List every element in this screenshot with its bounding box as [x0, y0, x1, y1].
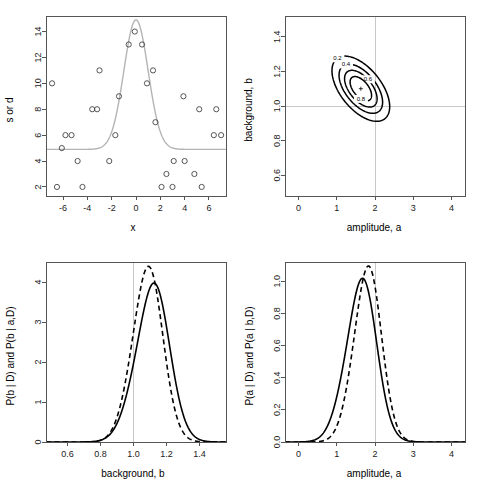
data-point: [214, 107, 219, 112]
x-tick-label: 1: [334, 203, 339, 213]
density-curves-layer: [46, 266, 226, 442]
figure-canvas: -6-4-202462468101214 x s or d 0.20.40.60…: [0, 0, 477, 492]
data-points-layer: [49, 29, 223, 190]
x-axis-title: amplitude, a: [347, 468, 402, 479]
x-tick-label: 4: [449, 449, 454, 459]
data-point: [49, 81, 54, 86]
density-curve-marginal: [46, 283, 226, 442]
background-marginal-svg: 0.60.81.01.21.401234 background, b P(b |…: [0, 246, 238, 492]
data-point: [219, 133, 224, 138]
y-axis-title: background, b: [243, 78, 254, 142]
data-point: [159, 184, 164, 189]
panel-amplitude-marginal: 012340.00.20.40.60.81.0 amplitude, a P(a…: [239, 246, 477, 492]
axes-layer: 012340.60.81.01.21.4: [272, 16, 465, 213]
data-point: [197, 107, 202, 112]
y-tick-label: 8: [33, 107, 43, 112]
scatter-plot-svg: -6-4-202462468101214 x s or d: [0, 0, 238, 246]
y-tick-label: 10: [33, 78, 43, 88]
panel-scatter-with-model: -6-4-202462468101214 x s or d: [0, 0, 238, 246]
y-tick-label: 0.0: [272, 436, 282, 449]
x-axis-title: x: [131, 222, 136, 233]
y-tick-label: 4: [33, 159, 43, 164]
y-tick-label: 1.0: [272, 275, 282, 288]
y-axis-title: P(b | D) and P(b | a,D): [5, 306, 16, 405]
y-tick-label: 0.6: [272, 339, 282, 352]
contour-label: 0.4: [342, 61, 351, 67]
x-tick-label: 0: [296, 203, 301, 213]
x-tick-label: -4: [83, 203, 91, 213]
x-axis-title: amplitude, a: [347, 222, 402, 233]
x-tick-label: 1: [334, 449, 339, 459]
x-tick-label: 2: [158, 203, 163, 213]
data-point: [181, 94, 186, 99]
y-tick-label: 1: [33, 399, 43, 404]
data-point: [132, 29, 137, 34]
x-tick-label: -6: [59, 203, 67, 213]
axes-layer: -6-4-202462468101214: [33, 16, 226, 213]
data-point: [54, 184, 59, 189]
x-tick-label: 4: [449, 203, 454, 213]
x-tick-label: 2: [372, 449, 377, 459]
y-tick-label: 0: [33, 439, 43, 444]
x-tick-label: 3: [411, 203, 416, 213]
data-point: [75, 158, 80, 163]
plot-frame: [46, 16, 226, 196]
model-curve-layer: [46, 20, 226, 150]
data-point: [170, 184, 175, 189]
x-tick-label: 0.6: [61, 449, 74, 459]
contour-label: 0.2: [333, 55, 342, 61]
y-tick-label: 2: [33, 184, 43, 189]
y-tick-label: 12: [33, 52, 43, 62]
x-tick-label: 0: [296, 449, 301, 459]
data-point: [171, 158, 176, 163]
data-point: [63, 133, 68, 138]
x-tick-label: 0: [133, 203, 138, 213]
y-tick-label: 0.8: [272, 307, 282, 320]
x-tick-label: 1.2: [160, 449, 173, 459]
contour-label: 0.8: [357, 96, 366, 102]
model-curve: [46, 20, 226, 150]
panel-background-marginal: 0.60.81.01.21.401234 background, b P(b |…: [0, 246, 238, 492]
x-tick-label: 6: [206, 203, 211, 213]
y-tick-label: 14: [33, 27, 43, 37]
data-point: [97, 68, 102, 73]
y-tick-label: 4: [33, 279, 43, 284]
axes-layer: 0.60.81.01.21.401234: [33, 262, 226, 459]
y-tick-label: 0.2: [272, 404, 282, 417]
x-axis-title: background, b: [101, 468, 165, 479]
data-point: [113, 133, 118, 138]
y-tick-label: 1.2: [272, 65, 282, 78]
x-tick-label: -2: [108, 203, 116, 213]
data-point: [107, 158, 112, 163]
y-axis-title: s or d: [4, 97, 15, 122]
data-point: [192, 171, 197, 176]
x-tick-label: 1.0: [127, 449, 140, 459]
contour-layer: 0.20.40.60.8: [330, 54, 389, 121]
y-tick-label: 3: [33, 319, 43, 324]
data-point: [150, 68, 155, 73]
x-tick-label: 1.4: [193, 449, 206, 459]
y-axis-title: P(a | D) and P(a | b,D): [244, 306, 255, 405]
data-point: [199, 184, 204, 189]
y-tick-label: 2: [33, 359, 43, 364]
y-tick-label: 1.4: [272, 31, 282, 44]
y-tick-label: 0.4: [272, 371, 282, 384]
y-tick-label: 1.0: [272, 100, 282, 113]
contour-plot-svg: 0.20.40.60.8 012340.60.81.01.21.4 amplit…: [239, 0, 477, 246]
data-point: [69, 133, 74, 138]
y-tick-label: 6: [33, 133, 43, 138]
data-point: [164, 171, 169, 176]
x-tick-label: 2: [372, 203, 377, 213]
x-tick-label: 4: [182, 203, 187, 213]
x-tick-label: 3: [411, 449, 416, 459]
data-point: [182, 158, 187, 163]
data-point: [80, 184, 85, 189]
panel-joint-posterior-contours: 0.20.40.60.8 012340.60.81.01.21.4 amplit…: [239, 0, 477, 246]
data-point: [144, 81, 149, 86]
x-tick-label: 0.8: [94, 449, 107, 459]
amplitude-marginal-svg: 012340.00.20.40.60.81.0 amplitude, a P(a…: [239, 246, 477, 492]
y-tick-label: 0.8: [272, 134, 282, 147]
y-tick-label: 0.6: [272, 169, 282, 182]
data-point: [211, 133, 216, 138]
